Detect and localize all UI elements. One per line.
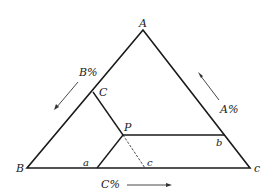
label-point-b: b: [216, 137, 222, 148]
label-point-C: C: [99, 86, 108, 99]
arrow-C-percent-icon: [127, 183, 172, 187]
line-P-to-a: [97, 135, 123, 168]
arrow-A-percent-icon: [198, 72, 219, 100]
label-axis-C-percent: C%: [101, 178, 120, 191]
label-vertex-A: A: [138, 17, 147, 30]
label-vertex-c: c: [254, 162, 260, 175]
label-point-c-base: c: [147, 157, 153, 168]
dashed-line-P-to-c: [123, 135, 145, 168]
line-C-to-P: [93, 92, 123, 135]
label-vertex-B: B: [15, 162, 24, 175]
label-axis-B-percent: B%: [78, 66, 98, 79]
label-axis-A-percent: A%: [219, 103, 238, 116]
ternary-diagram: A B c C P b a c B% A% C%: [0, 0, 276, 194]
arrow-B-percent-icon: [54, 82, 78, 110]
label-point-P: P: [123, 121, 132, 134]
label-point-a: a: [83, 157, 89, 168]
